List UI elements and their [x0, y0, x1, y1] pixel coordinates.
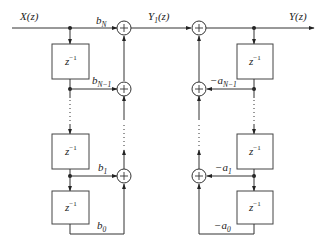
coef-label-b-0: b0	[97, 219, 107, 234]
coef-label-a-0: −a0	[214, 219, 231, 234]
adder	[192, 21, 206, 35]
adder	[117, 169, 131, 183]
adder	[117, 21, 131, 35]
coef-label-b-1: b1	[98, 161, 107, 176]
coef-label-a-n-1: −aN−1	[210, 74, 237, 89]
adder	[192, 169, 206, 183]
input-label: X(z)	[19, 10, 39, 23]
output-label: Y(z)	[289, 10, 307, 23]
coef-label-a-1: −a1	[215, 161, 232, 176]
filter-block-diagram: X(z) z−1 bN−1 bN z−1 b1 z−1 b0 Y1(	[0, 0, 325, 248]
adder	[192, 82, 206, 96]
coef-label-b-n: bN	[96, 14, 108, 29]
adder	[117, 82, 131, 96]
intermediate-label: Y1(z)	[148, 10, 170, 25]
coef-label-b-n-1: bN−1	[92, 74, 111, 89]
